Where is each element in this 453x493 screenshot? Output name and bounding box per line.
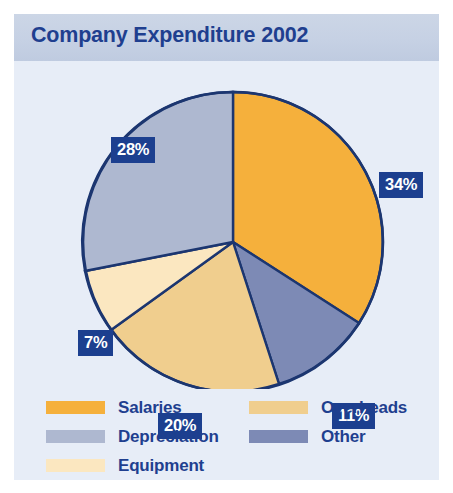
chart-page: Company Expenditure 2002 [0, 0, 453, 493]
legend-swatch-salaries [46, 401, 105, 414]
legend-swatch-other [249, 430, 308, 443]
chart-legend: Salaries Depreciation Equipment Overhead… [14, 393, 439, 480]
legend-label-other: Other [321, 427, 365, 447]
legend-label-equipment: Equipment [118, 456, 204, 476]
chart-plot-area: 28% 34% 7% 20% 11% [14, 61, 439, 389]
legend-swatch-equipment [46, 459, 105, 472]
chart-card: Company Expenditure 2002 [14, 14, 439, 480]
legend-item-overheads[interactable]: Overheads [249, 393, 407, 422]
data-label-depreciation: 28% [111, 137, 155, 163]
legend-label-depreciation: Depreciation [118, 427, 219, 447]
data-label-salaries: 34% [379, 172, 423, 198]
chart-title-band: Company Expenditure 2002 [14, 14, 439, 61]
legend-label-salaries: Salaries [118, 398, 182, 418]
legend-swatch-depreciation [46, 430, 105, 443]
legend-item-salaries[interactable]: Salaries [46, 393, 219, 422]
legend-item-equipment[interactable]: Equipment [46, 451, 219, 480]
data-label-equipment: 7% [78, 330, 113, 356]
legend-item-other[interactable]: Other [249, 422, 407, 451]
legend-column-left: Salaries Depreciation Equipment [46, 393, 219, 480]
legend-column-right: Overheads Other [249, 393, 407, 451]
pie-slice-depreciation[interactable] [82, 92, 233, 271]
legend-swatch-overheads [249, 401, 308, 414]
page-title: Company Expenditure 2002 [31, 23, 308, 48]
legend-label-overheads: Overheads [321, 398, 407, 418]
legend-item-depreciation[interactable]: Depreciation [46, 422, 219, 451]
